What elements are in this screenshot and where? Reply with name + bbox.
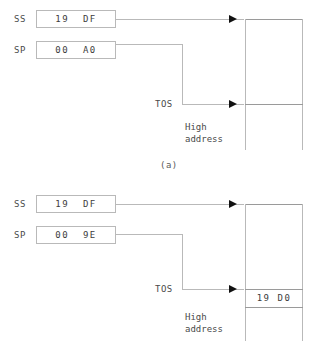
connector-sp-line-v-b bbox=[182, 234, 183, 289]
memory-divider-below-b bbox=[245, 307, 303, 308]
panel-a: SS 19 DF SP 00 A0 TOS High address (a) bbox=[0, 0, 335, 185]
tos-label-a: TOS bbox=[155, 100, 173, 109]
register-box-sp-b: 00 9E bbox=[36, 226, 116, 244]
tos-label-b: TOS bbox=[155, 285, 173, 294]
panel-caption-a: (a) bbox=[160, 160, 178, 170]
memory-right-edge-a bbox=[302, 19, 303, 150]
memory-left-edge-a bbox=[245, 19, 246, 150]
memory-top-rule-b bbox=[245, 204, 303, 205]
register-box-ss-b: 19 DF bbox=[36, 195, 116, 213]
arrowhead-tos-a bbox=[229, 100, 237, 108]
register-box-ss-a: 19 DF bbox=[36, 10, 116, 28]
register-label-ss-b: SS bbox=[14, 200, 26, 209]
register-box-sp-a: 00 A0 bbox=[36, 41, 116, 59]
connector-ss-line-b bbox=[116, 204, 244, 205]
panel-b: SS 19 DF SP 00 9E TOS High address 19 D0 bbox=[0, 185, 335, 341]
arrowhead-tos-b bbox=[229, 285, 237, 293]
high-address-label-b: High address bbox=[185, 311, 223, 335]
register-label-ss-a: SS bbox=[14, 15, 26, 24]
connector-sp-line-h1-b bbox=[116, 234, 183, 235]
memory-top-rule-a bbox=[245, 19, 303, 20]
memory-cell-value-b: 19 D0 bbox=[245, 293, 303, 303]
memory-divider-tos-b bbox=[245, 289, 303, 290]
register-value-sp-b: 00 9E bbox=[55, 230, 97, 240]
connector-sp-line-v-a bbox=[182, 44, 183, 104]
high-address-label-a: High address bbox=[185, 121, 223, 145]
register-label-sp-b: SP bbox=[14, 231, 26, 240]
register-value-sp-a: 00 A0 bbox=[55, 45, 97, 55]
memory-divider-tos-a bbox=[245, 104, 303, 105]
register-value-ss-a: 19 DF bbox=[55, 14, 97, 24]
register-label-sp-a: SP bbox=[14, 46, 26, 55]
connector-ss-line-a bbox=[116, 19, 244, 20]
arrowhead-ss-a bbox=[229, 15, 237, 23]
connector-sp-line-h1-a bbox=[116, 44, 183, 45]
arrowhead-ss-b bbox=[229, 200, 237, 208]
memory-left-edge-b bbox=[245, 204, 246, 341]
register-value-ss-b: 19 DF bbox=[55, 199, 97, 209]
memory-right-edge-b bbox=[302, 204, 303, 341]
